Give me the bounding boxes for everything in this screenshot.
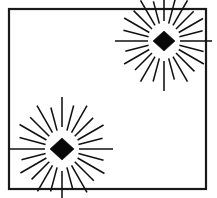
starburst-figure-svg [0, 0, 217, 198]
figure-canvas [0, 0, 217, 198]
